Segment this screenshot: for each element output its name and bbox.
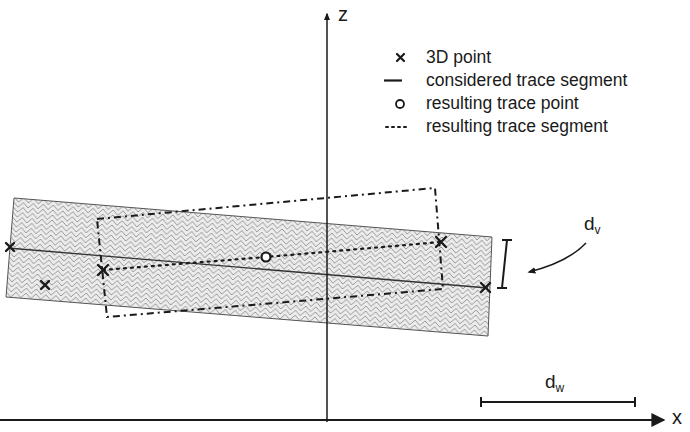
legend-item-considered-segment: considered trace segment bbox=[384, 69, 627, 92]
dv-curved-arrow bbox=[529, 243, 586, 272]
solid-line-icon bbox=[384, 69, 422, 92]
legend-item-trace-point: resulting trace point bbox=[384, 92, 627, 115]
cross-icon bbox=[384, 46, 422, 69]
trace-band bbox=[6, 198, 492, 336]
dv-label: dv bbox=[584, 213, 601, 237]
dv-dimension-bar bbox=[497, 240, 512, 288]
z-axis-label: z bbox=[338, 3, 348, 26]
dotted-line-icon bbox=[384, 115, 422, 138]
legend-item-3d-point: 3D point bbox=[384, 46, 627, 69]
circle-icon bbox=[384, 92, 422, 115]
dw-dimension-bar bbox=[481, 397, 635, 407]
legend-item-trace-segment: resulting trace segment bbox=[384, 115, 627, 138]
resulting-trace-point bbox=[262, 253, 271, 262]
dw-label: dw bbox=[545, 371, 564, 395]
legend: 3D point considered trace segment result… bbox=[384, 46, 627, 138]
x-axis-label: x bbox=[672, 406, 682, 429]
